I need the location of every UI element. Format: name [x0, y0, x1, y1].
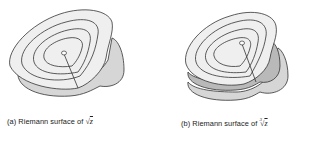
- figure-a: (a) Riemann surface of √z: [0, 0, 156, 145]
- caption-label: (b): [181, 119, 190, 128]
- caption-text: Riemann surface of: [192, 119, 257, 128]
- riemann-surface-cbrt-diagram: [156, 0, 312, 115]
- math-expression-sqrt-z: √z: [85, 117, 93, 126]
- caption-text: Riemann surface of: [18, 117, 83, 126]
- caption-label: (a): [7, 117, 16, 126]
- caption-a: (a) Riemann surface of √z: [7, 117, 93, 126]
- math-expression-cbrt-z: 3√z: [259, 119, 267, 128]
- figure-b: (b) Riemann surface of 3√z: [156, 0, 312, 145]
- riemann-surface-sqrt-diagram: [0, 0, 156, 115]
- caption-b: (b) Riemann surface of 3√z: [181, 117, 268, 128]
